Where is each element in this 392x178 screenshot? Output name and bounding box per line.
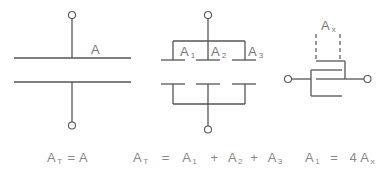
plate-label-a3: A3 [248,44,264,60]
figure-single-plate: A [14,12,131,130]
bottom-terminal-icon [69,122,76,129]
equations: AT= A AT = A1 + A2 + A3 A1 = 4Ax [47,150,375,167]
overlap-area-label: Ax [321,18,336,34]
equation-three-plates: AT = A1 + A2 + A3 [133,150,283,167]
bottom-terminal-icon [205,126,212,133]
equation-interdigitated: A1 = 4Ax [305,150,375,167]
left-terminal-icon [285,76,292,83]
top-terminal-icon [69,12,76,19]
right-terminal-icon [364,76,371,83]
plate-label-a2: A2 [211,44,227,60]
figure-three-plates: A1 A2 A3 [161,12,264,134]
capacitor-area-diagram: A A1 A2 A3 [0,0,392,178]
plate-label-a1: A1 [180,44,196,60]
figure-interdigitated: Ax [285,18,372,96]
plate-area-label: A [91,42,100,57]
top-terminal-icon [205,12,212,19]
equation-single-plate: AT= A [47,150,88,166]
